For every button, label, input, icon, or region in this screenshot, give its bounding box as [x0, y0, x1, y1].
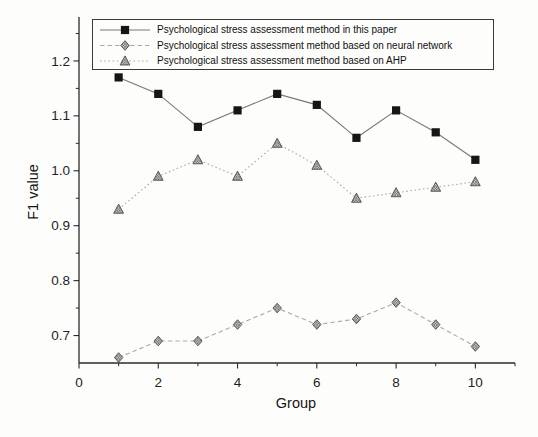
data-point-square [115, 73, 123, 81]
f1-value-line-chart: 02468100.70.80.91.01.11.2 Group F1 value… [0, 0, 538, 437]
data-point-triangle [153, 171, 163, 180]
x-tick-label: 0 [75, 375, 83, 390]
data-point-diamond [432, 320, 440, 330]
data-point-diamond [233, 320, 241, 330]
data-point-diamond [273, 303, 281, 313]
y-tick-label: 1.1 [51, 108, 70, 123]
x-tick-label: 6 [313, 375, 321, 390]
series-line-2 [119, 303, 476, 358]
data-point-diamond [313, 320, 321, 330]
data-point-square [392, 106, 400, 114]
data-point-diamond [114, 353, 122, 363]
x-tick-label: 2 [155, 375, 163, 390]
legend-label-neural-network: Psychological stress assessment method b… [157, 40, 453, 51]
legend-label-this-paper: Psychological stress assessment method i… [157, 24, 398, 35]
series-line-1 [119, 77, 476, 159]
data-point-triangle [470, 177, 480, 186]
data-point-square [194, 123, 202, 131]
series-line-3 [119, 143, 476, 209]
plot-area: 02468100.70.80.91.01.11.2 [51, 17, 515, 390]
y-tick-label: 1.2 [51, 54, 70, 69]
data-point-diamond [154, 336, 162, 346]
data-point-triangle [431, 182, 441, 191]
data-point-triangle [233, 171, 243, 180]
y-axis-title: F1 value [25, 164, 41, 220]
data-point-triangle [114, 204, 124, 213]
y-tick-label: 0.7 [51, 328, 70, 343]
data-point-triangle [352, 193, 362, 202]
data-point-square [154, 90, 162, 98]
data-point-square [233, 106, 241, 114]
data-point-triangle [272, 138, 282, 147]
data-point-square [313, 101, 321, 109]
data-point-triangle [391, 188, 401, 197]
legend: Psychological stress assessment method i… [93, 20, 494, 70]
legend-marker-square-icon [121, 26, 129, 34]
data-point-square [121, 26, 129, 34]
x-tick-label: 8 [392, 375, 400, 390]
data-point-square [471, 156, 479, 164]
data-point-diamond [352, 314, 360, 324]
x-axis-title: Group [276, 395, 316, 411]
data-point-triangle [312, 160, 322, 169]
data-point-square [273, 90, 281, 98]
series-markers-3 [114, 138, 481, 213]
y-tick-label: 0.9 [51, 218, 70, 233]
data-point-diamond [194, 336, 202, 346]
x-tick-label: 4 [234, 375, 242, 390]
data-point-diamond [392, 298, 400, 308]
data-point-square [352, 134, 360, 142]
x-tick-label: 10 [468, 375, 483, 390]
data-point-diamond [471, 342, 479, 352]
legend-label-ahp: Psychological stress assessment method b… [157, 55, 407, 66]
y-tick-label: 1.0 [51, 163, 70, 178]
series-markers-2 [114, 298, 479, 363]
data-point-square [432, 128, 440, 136]
data-point-triangle [193, 155, 203, 164]
figure-page: 02468100.70.80.91.01.11.2 Group F1 value… [0, 0, 538, 437]
series-markers-1 [115, 73, 480, 164]
y-tick-label: 0.8 [51, 273, 70, 288]
